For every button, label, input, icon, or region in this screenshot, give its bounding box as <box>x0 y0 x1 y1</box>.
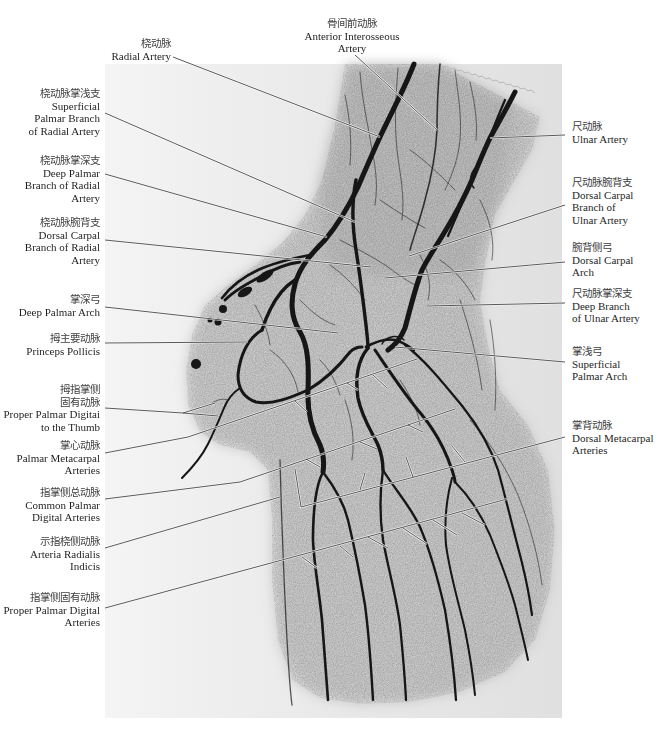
label-deep-palmar-arch: 掌深弓 Deep Palmar Arch <box>0 293 100 318</box>
label-en: Proper Palmar Digital <box>0 604 100 617</box>
label-radial-artery: 桡动脉 Radial Artery <box>40 37 171 62</box>
label-en: Indicis <box>0 560 100 573</box>
label-zh: 掌浅弓 <box>572 345 627 358</box>
label-en: Common Palmar <box>0 499 100 512</box>
label-zh: 腕背侧弓 <box>572 241 633 254</box>
label-en: Dorsal Carpal <box>572 189 633 202</box>
label-en: Arteries <box>572 444 654 457</box>
label-en: Proper Palmar Digitai <box>0 408 100 421</box>
label-zh: 桡动脉掌浅支 <box>0 87 100 100</box>
label-en: Dorsal Carpal <box>0 229 100 242</box>
label-zh: 拇指掌侧 <box>0 383 100 396</box>
label-en: Artery <box>0 254 100 267</box>
label-zh: 尺动脉 <box>572 120 628 133</box>
label-en: Arteries <box>0 616 100 629</box>
angiogram-figure: 桡动脉 Radial Artery 骨间前动脉 Anterior Interos… <box>0 0 662 731</box>
label-en: Palmar Metacarpal <box>0 452 100 465</box>
label-en: Arteries <box>0 464 100 477</box>
label-palmar-metacarpal-arteries: 掌心动脉 Palmar Metacarpal Arteries <box>0 439 100 477</box>
label-zh: 骨间前动脉 <box>282 17 422 30</box>
label-zh: 掌深弓 <box>0 293 100 306</box>
label-common-palmar-digital-arteries: 指掌侧总动脉 Common Palmar Digital Arteries <box>0 486 100 524</box>
label-en: Arch <box>572 266 633 279</box>
label-en: Arteria Radialis <box>0 548 100 561</box>
label-en: Branch of Radial <box>0 179 100 192</box>
label-zh: 示指桡侧动脉 <box>0 535 100 548</box>
label-proper-palmar-digital-arteries: 指掌侧固有动脉 Proper Palmar Digital Arteries <box>0 591 100 629</box>
label-deep-palmar-branch-of-radial-artery: 桡动脉掌深支 Deep Palmar Branch of Radial Arte… <box>0 154 100 204</box>
label-en: of Radial Artery <box>0 125 100 138</box>
label-en: Deep Palmar <box>0 167 100 180</box>
label-en: Artery <box>282 42 422 55</box>
label-dorsal-carpal-arch: 腕背侧弓 Dorsal Carpal Arch <box>572 241 633 279</box>
label-zh: 掌心动脉 <box>0 439 100 452</box>
label-en: Palmar Arch <box>572 370 627 383</box>
label-proper-palmar-digital-to-thumb: 拇指掌侧 固有动脉 Proper Palmar Digitai to the T… <box>0 383 100 433</box>
label-en: Anterior Interosseous <box>282 30 422 43</box>
label-en: Superficial <box>0 100 100 113</box>
label-en: to the Thumb <box>0 421 100 434</box>
label-en: Branch of Radial <box>0 241 100 254</box>
label-en: Ulnar Artery <box>572 214 633 227</box>
label-zh: 指掌侧总动脉 <box>0 486 100 499</box>
label-superficial-palmar-arch: 掌浅弓 Superficial Palmar Arch <box>572 345 627 383</box>
label-anterior-interosseous-artery: 骨间前动脉 Anterior Interosseous Artery <box>282 17 422 55</box>
label-en: Palmar Branch <box>0 112 100 125</box>
label-en: Artery <box>0 192 100 205</box>
label-zh: 指掌侧固有动脉 <box>0 591 100 604</box>
label-dorsal-metacarpal-arteries: 掌背动脉 Dorsal Metacarpal Arteries <box>572 419 654 457</box>
label-en: Princeps Pollicis <box>0 345 100 358</box>
label-zh: 桡动脉掌深支 <box>0 154 100 167</box>
label-arteria-radialis-indicis: 示指桡侧动脉 Arteria Radialis Indicis <box>0 535 100 573</box>
label-en: Dorsal Metacarpal <box>572 432 654 445</box>
label-en: Deep Palmar Arch <box>0 306 100 319</box>
label-zh: 尺动脉掌深支 <box>572 287 640 300</box>
label-ulnar-artery: 尺动脉 Ulnar Artery <box>572 120 628 145</box>
label-zh: 桡动脉腕背支 <box>0 216 100 229</box>
label-zh: 固有动脉 <box>0 396 100 409</box>
label-en: Dorsal Carpal <box>572 254 633 267</box>
label-en: Digital Arteries <box>0 511 100 524</box>
label-superficial-palmar-branch-of-radial-artery: 桡动脉掌浅支 Superficial Palmar Branch of Radi… <box>0 87 100 137</box>
label-zh: 掌背动脉 <box>572 419 654 432</box>
label-en: Deep Branch <box>572 300 640 313</box>
label-zh: 拇主要动脉 <box>0 332 100 345</box>
label-en: Superficial <box>572 358 627 371</box>
label-en: Branch of <box>572 201 633 214</box>
label-dorsal-carpal-branch-of-radial-artery: 桡动脉腕背支 Dorsal Carpal Branch of Radial Ar… <box>0 216 100 266</box>
label-princeps-pollicis: 拇主要动脉 Princeps Pollicis <box>0 332 100 357</box>
label-en: Ulnar Artery <box>572 133 628 146</box>
label-deep-branch-of-ulnar-artery: 尺动脉掌深支 Deep Branch of Ulnar Artery <box>572 287 640 325</box>
label-en: Radial Artery <box>40 50 171 63</box>
label-dorsal-carpal-branch-of-ulnar-artery: 尺动脉腕背支 Dorsal Carpal Branch of Ulnar Art… <box>572 176 633 226</box>
label-zh: 尺动脉腕背支 <box>572 176 633 189</box>
label-en: of Ulnar Artery <box>572 312 640 325</box>
label-zh: 桡动脉 <box>40 37 171 50</box>
